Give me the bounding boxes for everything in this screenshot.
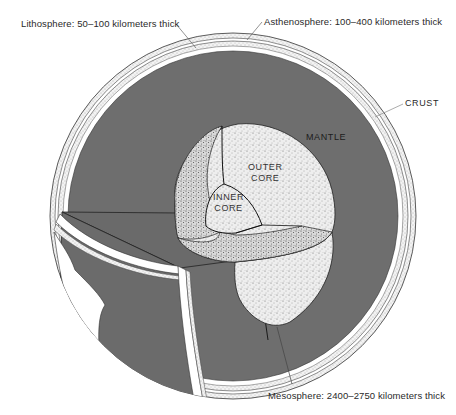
mantle-label: MANTLE (306, 132, 346, 142)
inner-core-label-line2: CORE (213, 203, 244, 214)
outer-core-label-line2: CORE (248, 173, 283, 184)
crust-label: CRUST (405, 98, 439, 108)
outer-core-label-line1: OUTER (248, 162, 283, 173)
inner-core-label-line1: INNER (213, 192, 244, 203)
lithosphere-label: Lithosphere: 50–100 kilometers thick (21, 18, 179, 29)
mesosphere-label: Mesosphere: 2400–2750 kilometers thick (268, 390, 445, 401)
asthenosphere-label: Asthenosphere: 100–400 kilometers thick (264, 16, 442, 27)
outer-core-label: OUTER CORE (248, 162, 283, 184)
earth-layers-diagram: Lithosphere: 50–100 kilometers thick Ast… (0, 0, 456, 415)
inner-core-label: INNER CORE (213, 192, 244, 214)
